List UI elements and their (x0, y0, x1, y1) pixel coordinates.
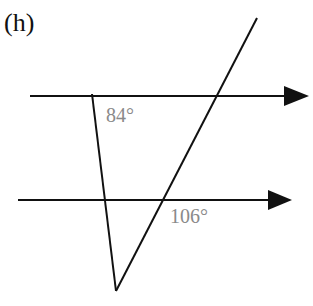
arrow-icon (268, 190, 292, 210)
geometry-diagram (0, 0, 313, 306)
angle-label-84: 84° (106, 104, 134, 127)
transversal-right (116, 18, 257, 291)
parallel-line-top (30, 86, 309, 106)
parallel-line-bottom (18, 190, 292, 210)
angle-label-106: 106° (170, 205, 208, 228)
arrow-icon (284, 86, 309, 106)
